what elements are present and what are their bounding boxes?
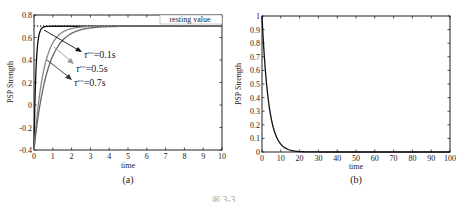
svg-text:20: 20 — [296, 154, 304, 163]
svg-text:0.5: 0.5 — [250, 80, 260, 89]
figure-caption: 图 3-3 — [212, 194, 236, 202]
svg-text:9: 9 — [201, 152, 205, 161]
series-line — [34, 26, 222, 150]
svg-text:-0.2: -0.2 — [19, 124, 32, 133]
svg-text:0: 0 — [260, 154, 264, 163]
figure: 012345678910 -0.4-0.200.20.40.60.8 resti… — [0, 0, 462, 202]
svg-text:0.7: 0.7 — [250, 53, 260, 62]
svg-text:6: 6 — [145, 152, 149, 161]
y-ticks-b: 00.10.20.30.40.50.60.70.80.91 — [250, 12, 450, 157]
series-line — [34, 26, 222, 150]
svg-text:0: 0 — [28, 101, 32, 110]
panel-label-a: (a) — [122, 174, 133, 186]
svg-text:70: 70 — [390, 154, 398, 163]
curves-b — [262, 16, 450, 152]
series-line — [34, 26, 222, 150]
x-axis-label-b: time — [349, 162, 364, 171]
svg-text:10: 10 — [218, 152, 226, 161]
svg-text:30: 30 — [314, 154, 322, 163]
svg-text:1: 1 — [256, 12, 260, 21]
svg-text:-0.4: -0.4 — [19, 146, 32, 155]
svg-text:4: 4 — [107, 152, 111, 161]
svg-text:0: 0 — [32, 152, 36, 161]
svg-text:0.6: 0.6 — [250, 66, 260, 75]
svg-text:90: 90 — [427, 154, 435, 163]
svg-text:7: 7 — [164, 152, 168, 161]
y-axis-label-b: PSP Strength — [234, 63, 243, 105]
svg-text:0.8: 0.8 — [22, 11, 32, 20]
x-ticks-b: 0102030405060708090100 — [260, 16, 456, 163]
svg-text:2: 2 — [70, 152, 74, 161]
svg-text:0.3: 0.3 — [250, 107, 260, 116]
y-ticks-a: -0.4-0.200.20.40.60.8 — [19, 11, 222, 155]
svg-text:1: 1 — [51, 152, 55, 161]
annotation-tau-0.1: τrec=0.1s — [84, 49, 116, 60]
svg-text:8: 8 — [182, 152, 186, 161]
annotation-tau-0.7: τrec=0.7s — [74, 77, 106, 88]
svg-text:3: 3 — [88, 152, 92, 161]
svg-text:5: 5 — [126, 152, 130, 161]
svg-text:0.1: 0.1 — [250, 134, 260, 143]
svg-text:0.9: 0.9 — [250, 26, 260, 35]
svg-text:40: 40 — [333, 154, 341, 163]
plot-frame-b — [262, 16, 450, 152]
svg-text:100: 100 — [444, 154, 456, 163]
svg-text:0: 0 — [256, 148, 260, 157]
curves-a — [34, 26, 222, 150]
annotation-tau-0.5: τrec=0.5s — [76, 63, 108, 74]
y-axis-label-a: PSP Strength — [6, 61, 15, 103]
svg-text:0.8: 0.8 — [250, 39, 260, 48]
svg-text:60: 60 — [371, 154, 379, 163]
x-axis-label-a: time — [121, 161, 136, 170]
panel-label-b: (b) — [350, 174, 362, 186]
plot-frame-a — [34, 15, 222, 150]
svg-text:0.2: 0.2 — [22, 79, 32, 88]
x-ticks-a: 012345678910 — [32, 15, 226, 161]
svg-text:0.4: 0.4 — [22, 56, 32, 65]
svg-text:0.6: 0.6 — [22, 34, 32, 43]
series-line — [262, 16, 450, 152]
svg-text:0.2: 0.2 — [250, 121, 260, 130]
svg-text:0.4: 0.4 — [250, 94, 260, 103]
panel-b: 0102030405060708090100 00.10.20.30.40.50… — [234, 12, 456, 186]
svg-text:10: 10 — [277, 154, 285, 163]
panel-a: 012345678910 -0.4-0.200.20.40.60.8 resti… — [6, 11, 226, 186]
svg-text:80: 80 — [408, 154, 416, 163]
resting-value-label: resting value — [169, 15, 211, 24]
